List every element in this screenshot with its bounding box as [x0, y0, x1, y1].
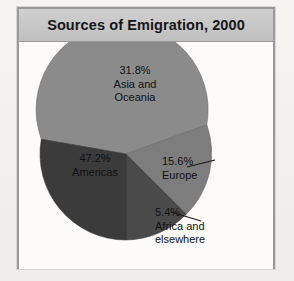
pie-slice-africa-elsewhere[interactable] — [40, 139, 126, 240]
pie-chart-plot-area: 31.8% Asia and Oceania 47.2% Americas 15… — [19, 42, 273, 269]
page-canvas: Sources of Emigration, 2000 31.8% — [0, 0, 294, 281]
chart-title-bar: Sources of Emigration, 2000 — [19, 9, 273, 42]
source-caption — [22, 274, 284, 281]
figure-frame: Sources of Emigration, 2000 31.8% — [17, 7, 275, 269]
pie-chart-svg — [19, 42, 273, 269]
page-title: Sources of Emigration, 2000 — [47, 17, 245, 33]
